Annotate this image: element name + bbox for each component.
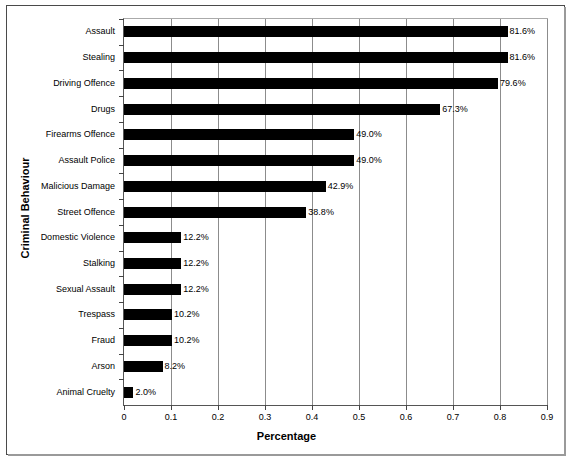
x-tick-label: 0.4	[292, 412, 332, 422]
x-tick-0.7	[453, 405, 454, 410]
category-label: Stealing	[0, 52, 115, 63]
bar-value-label: 81.6%	[510, 50, 536, 64]
bar-value-label: 49.0%	[356, 153, 382, 167]
x-tick-label: 0.8	[480, 412, 520, 422]
gridline-x-0.9	[547, 19, 548, 405]
x-tick-label: 0.3	[245, 412, 285, 422]
category-label: Animal Cruelty	[0, 387, 115, 398]
x-tick-0.9	[547, 405, 548, 410]
bar-row: Street Offence38.8%	[124, 207, 547, 218]
y-tick	[119, 225, 124, 226]
category-label: Street Offence	[0, 207, 115, 218]
bar-row: Stealing81.6%	[124, 52, 547, 63]
x-tick-0.2	[218, 405, 219, 410]
y-tick	[119, 96, 124, 97]
bar	[124, 78, 498, 89]
category-label: Sexual Assault	[0, 284, 115, 295]
bar-value-label: 12.2%	[183, 282, 209, 296]
category-label: Assault	[0, 26, 115, 37]
bar	[124, 26, 508, 37]
category-label: Firearms Offence	[0, 129, 115, 140]
bar-row: Animal Cruelty2.0%	[124, 387, 547, 398]
y-tick	[119, 276, 124, 277]
x-axis-title: Percentage	[7, 430, 566, 442]
bar	[124, 258, 181, 269]
bar	[124, 387, 133, 398]
bar-row: Sexual Assault12.2%	[124, 284, 547, 295]
bar-row: Fraud10.2%	[124, 335, 547, 346]
x-tick-0.4	[312, 405, 313, 410]
bar	[124, 284, 181, 295]
bar	[124, 129, 354, 140]
bar-row: Assault81.6%	[124, 26, 547, 37]
y-tick	[119, 122, 124, 123]
y-tick	[119, 19, 124, 20]
x-tick-0.8	[500, 405, 501, 410]
x-tick-label: 0	[104, 412, 144, 422]
plot-area: 00.10.20.30.40.50.60.70.80.9Assault81.6%…	[123, 18, 548, 406]
y-tick	[119, 173, 124, 174]
bar	[124, 104, 440, 115]
bar-value-label: 10.2%	[174, 307, 200, 321]
bar	[124, 181, 326, 192]
x-tick-label: 0.5	[339, 412, 379, 422]
x-tick-0.1	[171, 405, 172, 410]
bar-row: Trespass10.2%	[124, 309, 547, 320]
bar-value-label: 42.9%	[328, 179, 354, 193]
y-tick	[119, 199, 124, 200]
bar-value-label: 12.2%	[183, 256, 209, 270]
bar-value-label: 10.2%	[174, 333, 200, 347]
category-label: Drugs	[0, 104, 115, 115]
bar-row: Drugs67.3%	[124, 104, 547, 115]
bar-row: Arson8.2%	[124, 361, 547, 372]
bar-value-label: 67.3%	[442, 102, 468, 116]
x-tick-label: 0.1	[151, 412, 191, 422]
bar-row: Driving Offence79.6%	[124, 78, 547, 89]
bar	[124, 361, 163, 372]
category-label: Driving Offence	[0, 78, 115, 89]
x-tick-label: 0.2	[198, 412, 238, 422]
y-tick	[119, 354, 124, 355]
bar-row: Firearms Offence49.0%	[124, 129, 547, 140]
figure-frame: Criminal Behaviour Percentage 00.10.20.3…	[6, 5, 565, 455]
bar-value-label: 49.0%	[356, 127, 382, 141]
y-tick	[119, 379, 124, 380]
bar	[124, 155, 354, 166]
y-tick	[119, 70, 124, 71]
x-tick-label: 0.9	[527, 412, 567, 422]
x-tick-0	[124, 405, 125, 410]
x-tick-0.5	[359, 405, 360, 410]
category-label: Stalking	[0, 258, 115, 269]
category-label: Assault Police	[0, 155, 115, 166]
bar-value-label: 38.8%	[308, 205, 334, 219]
bar-row: Domestic Violence12.2%	[124, 232, 547, 243]
y-tick	[119, 148, 124, 149]
bar	[124, 335, 172, 346]
y-tick	[119, 302, 124, 303]
category-label: Trespass	[0, 309, 115, 320]
x-tick-0.3	[265, 405, 266, 410]
category-label: Fraud	[0, 335, 115, 346]
bar-value-label: 2.0%	[135, 385, 156, 399]
bar-row: Malicious Damage42.9%	[124, 181, 547, 192]
y-tick	[119, 328, 124, 329]
bar	[124, 309, 172, 320]
y-tick	[119, 45, 124, 46]
category-label: Malicious Damage	[0, 181, 115, 192]
bar	[124, 52, 508, 63]
bar-value-label: 8.2%	[165, 359, 186, 373]
x-tick-label: 0.6	[386, 412, 426, 422]
bar-row: Assault Police49.0%	[124, 155, 547, 166]
category-label: Domestic Violence	[0, 232, 115, 243]
bar-value-label: 12.2%	[183, 230, 209, 244]
bar	[124, 207, 306, 218]
bar-value-label: 81.6%	[510, 24, 536, 38]
y-tick	[119, 251, 124, 252]
bar-row: Stalking12.2%	[124, 258, 547, 269]
x-tick-0.6	[406, 405, 407, 410]
bar	[124, 232, 181, 243]
bar-value-label: 79.6%	[500, 76, 526, 90]
category-label: Arson	[0, 361, 115, 372]
x-tick-label: 0.7	[433, 412, 473, 422]
